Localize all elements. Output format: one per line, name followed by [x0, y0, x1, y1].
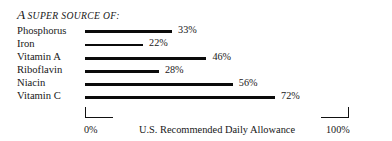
bar-value-label: 33% — [178, 24, 197, 35]
bar — [85, 30, 172, 33]
axis-line-left — [85, 117, 113, 118]
row-label: Niacin — [17, 77, 45, 88]
bar — [85, 96, 275, 99]
bar — [85, 57, 206, 60]
bar — [85, 44, 143, 47]
bar-track: 46% — [85, 51, 392, 64]
bar-value-label: 56% — [239, 77, 258, 88]
bar-value-label: 46% — [212, 51, 231, 62]
bar-track: 72% — [85, 91, 392, 104]
row-label: Vitamin C — [17, 90, 61, 101]
chart-title-rest: SUPER SOURCE OF: — [27, 10, 119, 21]
row-label: Riboflavin — [17, 64, 62, 75]
chart-row: Vitamin A46% — [0, 51, 392, 64]
axis-tick-label-min: 0% — [84, 124, 98, 135]
chart-row: Riboflavin28% — [0, 65, 392, 78]
chart-row: Vitamin C72% — [0, 91, 392, 104]
chart-row: Niacin56% — [0, 78, 392, 91]
row-label: Phosphorus — [17, 25, 66, 36]
chart-row: Iron22% — [0, 38, 392, 51]
bar-chart: ASUPER SOURCE OF: Phosphorus33%Iron22%Vi… — [0, 0, 392, 141]
axis-tick-right — [348, 107, 349, 118]
bar-track: 56% — [85, 78, 392, 91]
row-label: Vitamin A — [17, 51, 61, 62]
chart-rows: Phosphorus33%Iron22%Vitamin A46%Riboflav… — [0, 25, 392, 104]
axis-caption: U.S. Recommended Daily Allowance — [85, 124, 349, 135]
chart-title-lead: A — [17, 7, 27, 22]
axis-tick-label-max: 100% — [326, 124, 350, 135]
bar — [85, 83, 233, 86]
chart-row: Phosphorus33% — [0, 25, 392, 38]
chart-title: ASUPER SOURCE OF: — [17, 7, 120, 23]
axis-line-right — [321, 117, 349, 118]
bar-value-label: 22% — [149, 37, 168, 48]
row-label: Iron — [17, 38, 35, 49]
bar-track: 28% — [85, 65, 392, 78]
bar-track: 33% — [85, 25, 392, 38]
bar-track: 22% — [85, 38, 392, 51]
bar-value-label: 72% — [281, 90, 300, 101]
bar — [85, 70, 159, 73]
bar-value-label: 28% — [165, 64, 184, 75]
axis-tick-left — [85, 107, 86, 118]
